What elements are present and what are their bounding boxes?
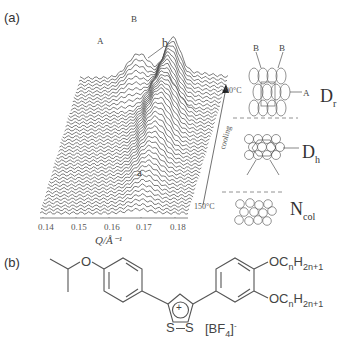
sulfur-atom-2: S	[185, 320, 194, 335]
ring-charge: +	[176, 302, 182, 313]
sulfur-atom-1: S	[166, 320, 175, 335]
alkoxy-chain-bottom: OCnH2n+1	[269, 291, 323, 309]
alkoxy-chain-top: OCnH2n+1	[269, 254, 323, 272]
counterion: [BF4]-	[205, 321, 237, 339]
ss-bond	[176, 328, 185, 329]
oxygen-atom: O	[81, 254, 91, 269]
